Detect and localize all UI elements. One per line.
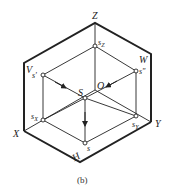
label-Z: Z: [92, 10, 98, 21]
point-s-double-prime: [134, 69, 138, 73]
label-s-double-prime: s": [139, 67, 146, 76]
point-markers: [41, 44, 138, 145]
label-Y: Y: [155, 118, 162, 129]
projection-diagram: Z V W X Y O S H s' s" s sZ sX sY (b): [0, 0, 171, 194]
label-s-y: sY: [132, 120, 139, 130]
label-s-x: sX: [31, 112, 38, 122]
projection-box: [43, 46, 136, 143]
label-s-z: sZ: [98, 38, 105, 48]
label-O: O: [97, 80, 104, 91]
point-s-x: [41, 118, 45, 122]
point-s-prime: [41, 73, 45, 77]
label-W: W: [139, 54, 149, 65]
label-s: s: [87, 144, 90, 153]
label-X: X: [12, 128, 20, 139]
label-s-prime: s': [32, 71, 37, 80]
label-S: S: [78, 87, 83, 98]
point-s-z: [93, 44, 97, 48]
figure-caption: (b): [77, 175, 88, 185]
point-S: [83, 96, 87, 100]
point-s-y: [134, 114, 138, 118]
projection-arrows: [55, 81, 117, 126]
